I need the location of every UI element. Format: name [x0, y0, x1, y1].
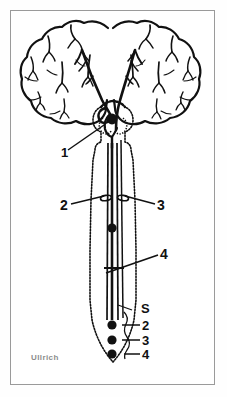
leader-3 [125, 196, 155, 204]
segment-label-2: 2 [142, 318, 149, 333]
segment-label-4: 4 [142, 347, 150, 362]
callout-label-2: 2 [60, 197, 68, 213]
callout-label-4: 4 [160, 246, 168, 262]
callout-label-1: 1 [61, 145, 68, 160]
callout-label-3: 3 [157, 197, 165, 213]
figure-frame: 1 2 3 4 S 2 3 4 Ullrich [0, 0, 227, 397]
motor-nucleus-3 [107, 335, 116, 344]
segment-label-3: 3 [142, 333, 149, 348]
artist-signature: Ullrich [31, 353, 59, 362]
leader-2 [71, 196, 104, 204]
motor-nucleus-4 [107, 349, 116, 358]
motor-nucleus-2 [107, 320, 116, 329]
right-cerebral-hemisphere [113, 21, 200, 124]
mid-cord-neuron-soma [107, 223, 116, 232]
nerve-root-loops [100, 195, 129, 202]
segment-label-s: S [141, 301, 150, 316]
leader-1 [68, 125, 104, 150]
leader-4 [106, 255, 158, 273]
descending-tract-lines [107, 140, 123, 320]
left-cerebral-hemisphere [21, 21, 108, 124]
anatomy-diagram: 1 2 3 4 S 2 3 4 Ullrich [0, 0, 227, 397]
leader-seg-s [118, 305, 132, 310]
upper-motor-neuron-soma [107, 114, 118, 125]
